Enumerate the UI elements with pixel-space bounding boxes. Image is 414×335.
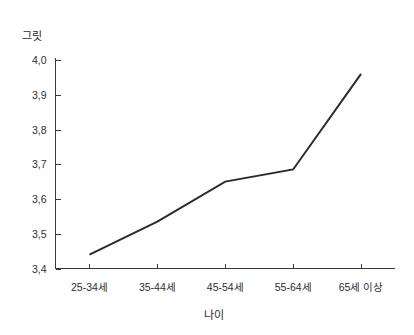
y-axis-tick-label: 4,0 [32,54,47,66]
chart-figure: 3,43,53,63,73,83,94,0 25-34세35-44세45-54세… [0,0,414,335]
x-axis-tick-label: 35-44세 [139,281,176,293]
y-axis-title: 그릿 [22,30,42,42]
y-axis-tick-label: 3,5 [32,228,47,240]
x-axis-title: 나이 [204,309,224,321]
y-axis-tick-label: 3,6 [32,193,47,205]
x-axis-tick-label: 65세 이상 [339,281,384,293]
y-axis-tick-label: 3,8 [32,124,47,136]
y-axis-tick-label: 3,9 [32,89,47,101]
x-axis-tick-label: 45-54세 [207,281,244,293]
x-axis-tick-label: 25-34세 [71,281,108,293]
line-chart-canvas: 3,43,53,63,73,83,94,0 25-34세35-44세45-54세… [0,0,414,335]
x-axis-tick-label: 55-64세 [275,281,312,293]
y-axis-tick-label: 3,4 [32,263,47,275]
y-axis-tick-label: 3,7 [32,158,47,170]
